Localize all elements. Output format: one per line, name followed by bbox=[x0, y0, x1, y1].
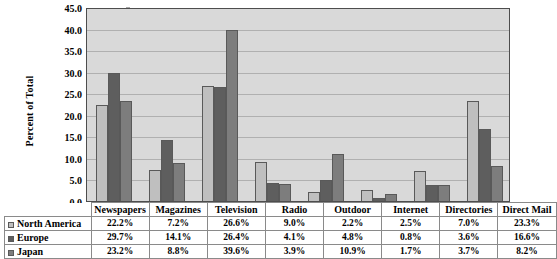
table-row: Europe29.7%14.1%26.4%4.1%4.8%0.8%3.6%16.… bbox=[5, 231, 557, 245]
table-cell: 26.4% bbox=[207, 231, 265, 245]
table-cell: 16.6% bbox=[498, 231, 556, 245]
y-tick-label: 45.0 bbox=[44, 3, 82, 14]
bar-group bbox=[140, 9, 193, 201]
bar bbox=[438, 185, 450, 201]
y-tick-label: 20.0 bbox=[44, 110, 82, 121]
bar bbox=[279, 184, 291, 201]
table-cell: 7.2% bbox=[149, 217, 207, 231]
table-cell: 39.6% bbox=[207, 245, 265, 259]
y-tick-label: 15.0 bbox=[44, 132, 82, 143]
bar-group bbox=[193, 9, 246, 201]
series-name-text: North America bbox=[17, 218, 81, 229]
bars-layer bbox=[87, 9, 510, 201]
y-tick-label: 40.0 bbox=[44, 24, 82, 35]
bar-group bbox=[246, 9, 299, 201]
bar bbox=[467, 101, 479, 201]
table-cell: 9.0% bbox=[265, 217, 323, 231]
bar bbox=[161, 140, 173, 201]
y-tick-label: 30.0 bbox=[44, 67, 82, 78]
bar bbox=[214, 87, 226, 201]
table-cell: 3.6% bbox=[440, 231, 498, 245]
legend-series-label: North America bbox=[5, 217, 92, 231]
table-cell: 8.8% bbox=[149, 245, 207, 259]
table-column-header: Internet bbox=[382, 203, 440, 217]
table-corner-cell bbox=[5, 203, 92, 217]
series-name-text: Europe bbox=[17, 232, 49, 243]
plot-area bbox=[86, 8, 510, 202]
data-table: NewspapersMagazinesTelevisionRadioOutdoo… bbox=[4, 202, 557, 259]
legend-series-label: Japan bbox=[5, 245, 92, 259]
bar bbox=[320, 180, 332, 201]
y-tick-label: 10.0 bbox=[44, 153, 82, 164]
table-cell: 26.6% bbox=[207, 217, 265, 231]
bar-group bbox=[87, 9, 140, 201]
y-tick-label: 25.0 bbox=[44, 89, 82, 100]
legend-series-label: Europe bbox=[5, 231, 92, 245]
bar bbox=[332, 154, 344, 201]
legend-swatch-icon bbox=[8, 236, 14, 242]
bar bbox=[426, 185, 438, 201]
table-cell: 23.2% bbox=[91, 245, 149, 259]
bar bbox=[308, 192, 320, 201]
table-cell: 7.0% bbox=[440, 217, 498, 231]
y-axis-title: Percent of Total bbox=[24, 56, 40, 166]
bar bbox=[385, 194, 397, 201]
table-column-header: Newspapers bbox=[91, 203, 149, 217]
y-tick-label: 5.0 bbox=[44, 175, 82, 186]
bar bbox=[479, 129, 491, 201]
bar bbox=[491, 166, 503, 201]
table-row: Japan23.2%8.8%39.6%3.9%10.9%1.7%3.7%8.2% bbox=[5, 245, 557, 259]
table-cell: 10.9% bbox=[324, 245, 382, 259]
bar bbox=[226, 30, 238, 201]
bar bbox=[361, 190, 373, 201]
table-cell: 2.2% bbox=[324, 217, 382, 231]
bar bbox=[96, 105, 108, 201]
table-cell: 23.3% bbox=[498, 217, 556, 231]
bar bbox=[149, 170, 161, 201]
table-cell: 22.2% bbox=[91, 217, 149, 231]
table-column-header: Directories bbox=[440, 203, 498, 217]
table-body: North America22.2%7.2%26.6%9.0%2.2%2.5%7… bbox=[5, 217, 557, 259]
table-column-header: Direct Mail bbox=[498, 203, 556, 217]
bar bbox=[108, 73, 120, 201]
series-name-text: Japan bbox=[17, 246, 43, 257]
table-cell: 0.8% bbox=[382, 231, 440, 245]
table-header-row: NewspapersMagazinesTelevisionRadioOutdoo… bbox=[5, 203, 557, 217]
bar-group bbox=[406, 9, 459, 201]
table-cell: 4.8% bbox=[324, 231, 382, 245]
bar bbox=[267, 183, 279, 201]
bar-group bbox=[300, 9, 353, 201]
bar bbox=[414, 171, 426, 201]
bar bbox=[255, 162, 267, 201]
y-tick-label: 35.0 bbox=[44, 46, 82, 57]
table-cell: 3.9% bbox=[265, 245, 323, 259]
table-row: North America22.2%7.2%26.6%9.0%2.2%2.5%7… bbox=[5, 217, 557, 231]
bar-group bbox=[353, 9, 406, 201]
table-column-header: Television bbox=[207, 203, 265, 217]
table-cell: 8.2% bbox=[498, 245, 556, 259]
table-column-header: Outdoor bbox=[324, 203, 382, 217]
legend-swatch-icon bbox=[8, 250, 14, 256]
table-cell: 29.7% bbox=[91, 231, 149, 245]
table-column-header: Radio bbox=[265, 203, 323, 217]
table-cell: 4.1% bbox=[265, 231, 323, 245]
bar bbox=[373, 198, 385, 201]
table-cell: 14.1% bbox=[149, 231, 207, 245]
table-cell: 2.5% bbox=[382, 217, 440, 231]
bar bbox=[173, 163, 185, 201]
table-cell: 3.7% bbox=[440, 245, 498, 259]
y-axis-tick-labels: 0.05.010.015.020.025.030.035.040.045.0 bbox=[44, 8, 82, 202]
table-cell: 1.7% bbox=[382, 245, 440, 259]
bar bbox=[202, 86, 214, 201]
legend-swatch-icon bbox=[8, 222, 14, 228]
bar bbox=[120, 101, 132, 201]
table-column-header: Magazines bbox=[149, 203, 207, 217]
bar-group bbox=[459, 9, 510, 201]
